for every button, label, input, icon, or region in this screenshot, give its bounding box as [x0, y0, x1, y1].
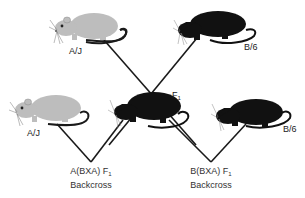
- mouse-aj-backcross-icon: [9, 95, 88, 126]
- mouse-b6-backcross-icon: [211, 99, 290, 131]
- label-cross-b-backcross: B(BXA) F1 Backcross: [171, 166, 251, 191]
- mouse-aj-parent-icon: [49, 13, 126, 44]
- cross-line-b6-to-f1: [109, 38, 197, 145]
- backcross-line-aj: [57, 124, 91, 162]
- breeding-diagram: [0, 0, 305, 198]
- label-b6-parent: B/6: [244, 42, 258, 52]
- label-f1: F1: [172, 90, 181, 103]
- label-b6-backcross: B/6: [283, 124, 297, 134]
- backcross-line-f1-left: [91, 120, 123, 162]
- label-aj-backcross: A/J: [27, 128, 40, 138]
- label-aj-parent: A/J: [69, 46, 82, 56]
- backcross-line-b6: [211, 124, 246, 162]
- label-cross-a-backcross: A(BXA) F1 Backcross: [51, 166, 131, 191]
- mouse-b6-parent-icon: [173, 11, 255, 45]
